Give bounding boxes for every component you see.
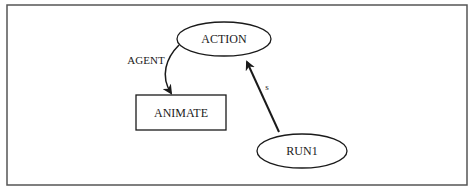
node-animate: ANIMATE <box>136 95 226 130</box>
s-edge-label: s <box>265 82 269 92</box>
action-label: ACTION <box>201 32 247 46</box>
node-action: ACTION <box>177 22 271 56</box>
run1-label: RUN1 <box>286 144 317 158</box>
animate-label: ANIMATE <box>154 106 208 120</box>
agent-edge-label: AGENT <box>127 54 165 66</box>
semantic-network-diagram: ACTION ANIMATE RUN1 AGENT s <box>0 0 475 192</box>
node-run1: RUN1 <box>257 134 347 168</box>
